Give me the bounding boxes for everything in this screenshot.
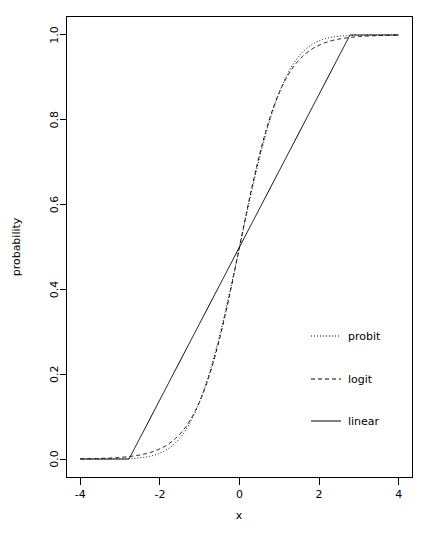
legend-label-linear: linear (348, 415, 380, 428)
x-axis-label: x (236, 509, 243, 522)
y-tick-label: 1.0 (48, 26, 61, 44)
x-tick-label: 0 (236, 488, 243, 501)
y-tick-label: 0.6 (48, 196, 61, 214)
chart-canvas: 0.00.20.40.60.81.0 -4-2024 x probability… (0, 0, 428, 544)
plot-svg: 0.00.20.40.60.81.0 -4-2024 x probability… (0, 0, 428, 544)
y-tick-label: 0.0 (48, 450, 61, 468)
x-tick-label: 4 (395, 488, 402, 501)
legend-label-probit: probit (348, 330, 381, 343)
legend-label-logit: logit (348, 373, 373, 386)
x-tick-label: 2 (316, 488, 323, 501)
y-tick-label: 0.8 (48, 111, 61, 129)
y-axis-label: probability (10, 217, 23, 276)
background (0, 0, 428, 544)
y-tick-label: 0.4 (48, 281, 61, 299)
x-tick-label: -2 (154, 488, 165, 501)
y-tick-label: 0.2 (48, 365, 61, 383)
x-tick-label: -4 (75, 488, 86, 501)
